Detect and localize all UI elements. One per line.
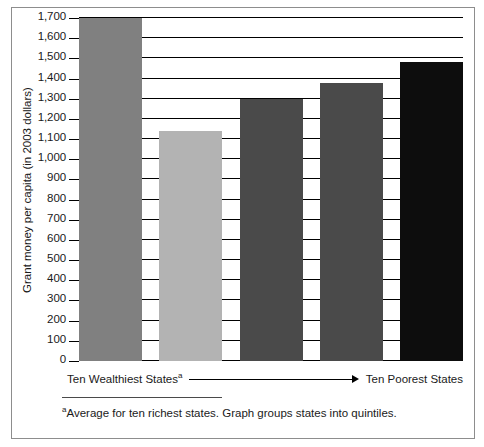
y-axis-tick-mark: [69, 79, 79, 80]
y-axis-tick-mark: [69, 18, 79, 19]
y-axis-tick-label: 400: [47, 272, 66, 284]
footnote-text: Average for ten richest states. Graph gr…: [66, 407, 396, 419]
y-axis-tick-label: 800: [47, 192, 66, 204]
bar: [79, 18, 142, 361]
y-axis-tick-label: 700: [47, 212, 66, 224]
bar: [320, 83, 383, 361]
y-axis-tick-label: 900: [47, 171, 66, 183]
y-axis-tick-label: 200: [47, 313, 66, 325]
y-axis-tick-label: 1,500: [38, 50, 66, 62]
y-axis-tick-label: 1,200: [38, 111, 66, 123]
y-axis-tick-mark: [69, 321, 79, 322]
y-axis-tick-mark: [69, 240, 79, 241]
y-axis-tick-mark: [69, 220, 79, 221]
x-axis-left-label-marker: a: [178, 371, 182, 380]
bar: [159, 131, 222, 361]
y-axis-tick-mark: [69, 260, 79, 261]
bar-series: [79, 18, 463, 361]
y-axis-tick-mark: [69, 200, 79, 201]
y-axis-tick-label: 1,300: [38, 91, 66, 103]
x-axis-left-label-text: Ten Wealthiest States: [67, 373, 178, 385]
y-axis-tick-label: 1,400: [38, 71, 66, 83]
y-axis-tick-label: 1,700: [38, 10, 66, 22]
y-axis-tick-mark: [69, 280, 79, 281]
y-axis-tick-mark: [69, 99, 79, 100]
y-axis-tick-mark: [69, 341, 79, 342]
y-axis-tick-mark: [69, 361, 79, 362]
y-axis-tick-mark: [69, 300, 79, 301]
chart-figure: Grant money per capita (in 2003 dollars)…: [0, 0, 484, 447]
y-axis-tick-mark: [69, 179, 79, 180]
y-axis-tick-label: 1,600: [38, 30, 66, 42]
y-axis-tick-mark: [69, 119, 79, 120]
y-axis-tick-mark: [69, 38, 79, 39]
y-axis-tick-label: 300: [47, 292, 66, 304]
y-axis-tick-mark: [69, 139, 79, 140]
x-axis-left-label: Ten Wealthiest Statesa: [67, 373, 182, 385]
y-axis-tick-mark: [69, 58, 79, 59]
y-axis-tick-label: 0: [60, 353, 66, 365]
footnote: aAverage for ten richest states. Graph g…: [62, 407, 397, 419]
arrow-head: [352, 375, 359, 383]
footnote-divider: [62, 397, 222, 398]
x-axis-annotation: Ten Wealthiest Statesa Ten Poorest State…: [11, 368, 475, 390]
y-axis-tick-label: 600: [47, 232, 66, 244]
y-axis-tick-label: 500: [47, 252, 66, 264]
direction-arrow-icon: [189, 374, 358, 385]
arrow-line: [189, 379, 352, 380]
bar: [240, 99, 303, 361]
plot-area: [79, 18, 463, 361]
y-axis: 1,7001,6001,5001,4001,3001,2001,1001,000…: [0, 18, 79, 361]
bar: [400, 62, 463, 361]
y-axis-tick-label: 1,000: [38, 151, 66, 163]
y-axis-tick-label: 100: [47, 333, 66, 345]
y-axis-tick-mark: [69, 159, 79, 160]
y-axis-tick-label: 1,100: [38, 131, 66, 143]
x-axis-right-label: Ten Poorest States: [366, 373, 463, 385]
